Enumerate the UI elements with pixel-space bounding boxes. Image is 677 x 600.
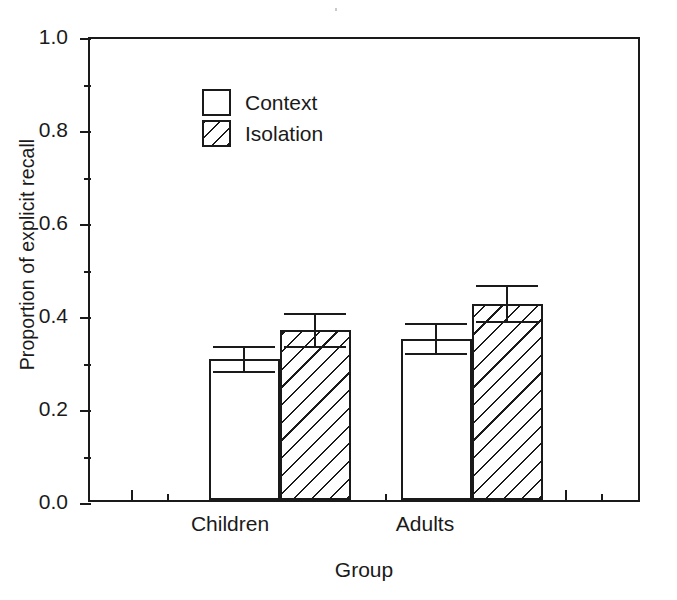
x-tickmark	[131, 490, 133, 501]
y-tick-label: 0.8	[39, 118, 68, 142]
y-tickmark	[80, 503, 91, 505]
y-tick-label: 0.4	[39, 304, 68, 328]
errorbar-stem	[506, 285, 508, 324]
bar-adults-isolation	[472, 304, 543, 500]
y-tickmark	[84, 457, 91, 459]
bar-children-isolation	[280, 330, 351, 500]
errorbar-stem	[314, 313, 316, 348]
errorbar-cap-upper	[213, 346, 275, 348]
caption-fragment	[30, 588, 650, 600]
legend-item-context: Context	[202, 87, 323, 118]
hatched-square-swatch-icon	[202, 120, 231, 147]
errorbar-cap-lower	[476, 321, 538, 323]
y-tickmark	[80, 410, 91, 412]
legend-label-isolation: Isolation	[245, 122, 323, 146]
bar-adults-context	[401, 339, 472, 500]
errorbar-cap-lower	[405, 353, 467, 355]
y-tickmark	[84, 85, 91, 87]
errorbar-cap-upper	[476, 285, 538, 287]
errorbar-stem	[435, 323, 437, 355]
legend-item-isolation: Isolation	[202, 118, 323, 149]
y-tickmark	[84, 364, 91, 366]
scan-speck	[335, 8, 337, 11]
legend: Context Isolation	[202, 87, 323, 149]
y-axis-title: Proportion of explicit recall	[16, 20, 39, 490]
errorbar-cap-lower	[284, 346, 346, 348]
errorbar-cap-lower	[213, 371, 275, 373]
y-tick-label: 0.2	[39, 397, 68, 421]
y-tick-label: 0.6	[39, 211, 68, 235]
x-tickmark	[167, 494, 169, 501]
bar-children-context	[209, 359, 280, 500]
y-tickmark	[80, 131, 91, 133]
errorbar-cap-upper	[405, 323, 467, 325]
y-tickmark	[80, 38, 91, 40]
y-tick-label: 1.0	[39, 25, 68, 49]
figure-bar-chart: Proportion of explicit recall 1.0 0.8 0.…	[0, 0, 677, 600]
legend-label-context: Context	[245, 91, 317, 115]
x-axis-title: Group	[88, 558, 640, 582]
x-tickmark	[385, 494, 387, 501]
open-square-swatch-icon	[202, 89, 231, 116]
y-tickmark	[84, 178, 91, 180]
errorbar-cap-upper	[284, 313, 346, 315]
y-tickmark	[84, 271, 91, 273]
x-tickmark	[565, 490, 567, 501]
y-tick-label: 0.0	[39, 490, 68, 514]
errorbar-stem	[243, 346, 245, 374]
y-tickmark	[80, 224, 91, 226]
plot-area: 1.0 0.8 0.6 0.4 0.2 0.0	[88, 37, 640, 502]
x-tickmark	[601, 494, 603, 501]
x-group-label-children: Children	[130, 512, 330, 536]
x-group-label-adults: Adults	[325, 512, 525, 536]
y-tickmark	[80, 317, 91, 319]
